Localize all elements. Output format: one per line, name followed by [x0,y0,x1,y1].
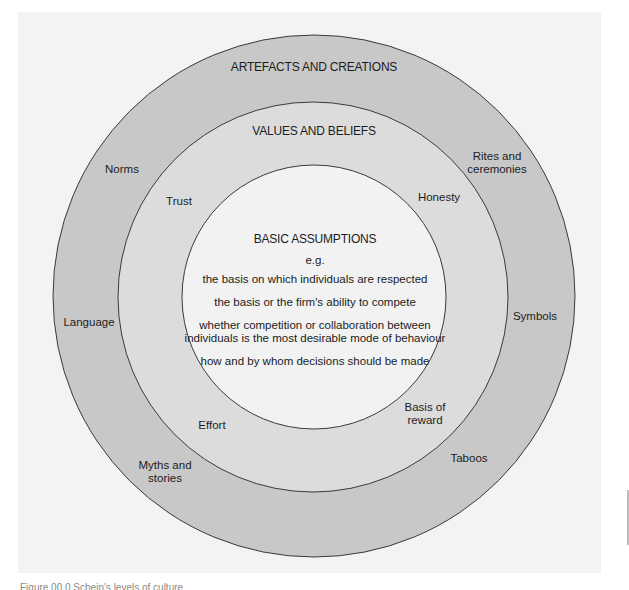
label-norms: Norms [105,163,139,176]
outer-ring-title: ARTEFACTS AND CREATIONS [231,61,397,74]
figure-caption: Figure 00.0 Schein's levels of culture [20,582,183,590]
basic-assumptions-block: BASIC ASSUMPTIONS e.g. the basis on whic… [184,233,446,368]
label-trust: Trust [166,195,192,208]
assumption-item: the basis on which individuals are respe… [184,273,446,286]
label-honesty: Honesty [418,191,460,204]
label-line: ceremonies [467,163,526,176]
middle-ring-title: VALUES AND BELIEFS [252,125,376,138]
label-rites-and-ceremonies: Rites and ceremonies [467,150,526,176]
label-taboos: Taboos [450,452,487,465]
assumption-item: individuals is the most desirable mode o… [174,332,456,345]
inner-circle-subtitle: e.g. [184,254,446,267]
label-line: Basis of [405,401,446,414]
label-effort: Effort [198,419,225,432]
label-line: Myths and [138,459,191,472]
label-language: Language [63,316,114,329]
label-myths-and-stories: Myths and stories [138,459,191,485]
label-line: Rites and [467,150,526,163]
assumption-item: how and by whom decisions should be made [184,355,446,368]
assumption-item: the basis or the firm's ability to compe… [184,296,446,309]
label-line: stories [138,472,191,485]
label-line: reward [405,414,446,427]
inner-circle-title: BASIC ASSUMPTIONS [184,233,446,246]
label-basis-of-reward: Basis of reward [405,401,446,427]
assumption-item: whether competition or collaboration bet… [184,319,446,332]
label-symbols: Symbols [513,310,557,323]
